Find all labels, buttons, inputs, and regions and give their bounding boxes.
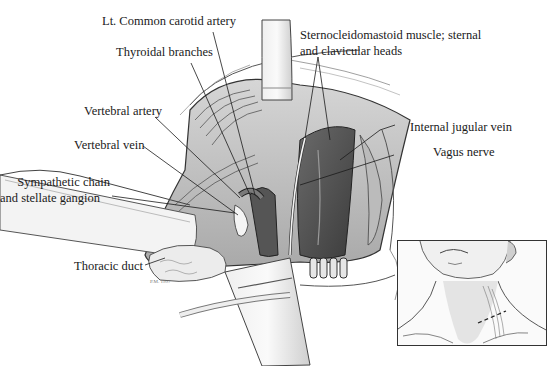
label-sternocleidomastoid-line2: and clavicular heads [300,44,402,59]
neck-inset-drawing [398,241,547,346]
label-vertebral-vein: Vertebral vein [74,138,144,153]
label-sympathetic-chain-line2: and stellate gangion [0,191,100,206]
inset-neck-view [397,240,547,346]
label-vagus-nerve: Vagus nerve [433,145,494,160]
illustration-canvas: P.M. 1997 Lt. Common carotid artery Thyr… [0,0,555,366]
label-thyroidal-branches: Thyroidal branches [116,45,213,60]
label-sternocleidomastoid-line1: Sternocleidomastoid muscle; sternal [300,28,481,43]
label-vertebral-artery: Vertebral artery [84,104,162,119]
label-internal-jugular-vein: Internal jugular vein [410,120,512,135]
artist-signature: P.M. 1997 [150,279,171,284]
label-sympathetic-chain-line1: Sympathetic chain [0,175,110,190]
label-thoracic-duct: Thoracic duct [74,259,143,274]
label-lt-common-carotid-artery: Lt. Common carotid artery [102,14,236,29]
